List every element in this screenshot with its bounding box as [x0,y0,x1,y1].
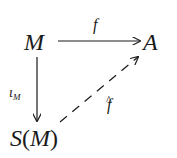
arrow-f-hat [60,57,138,122]
node-m: M [24,30,44,54]
iota-subscript: M [13,92,21,102]
label-iota-m: ιM [9,86,20,100]
node-m-text: M [24,29,44,55]
node-s-of-m: S(M) [10,126,58,150]
node-a: A [143,30,158,54]
f-hat-wrapper: ^ f [107,97,111,113]
open-paren: ( [22,125,30,151]
functor-arg: M [30,125,50,151]
close-paren: ) [50,125,58,151]
functor-s: S [10,125,22,151]
label-f: f [93,17,97,33]
hat-accent-icon: ^ [106,94,112,106]
node-a-text: A [143,29,158,55]
label-f-text: f [93,16,97,33]
